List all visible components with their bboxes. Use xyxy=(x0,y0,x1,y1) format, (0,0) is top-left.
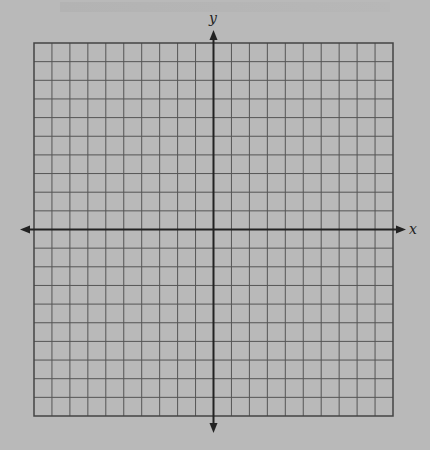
x-axis-label: x xyxy=(409,221,417,237)
y-axis-label: y xyxy=(209,10,217,26)
y-axis xyxy=(210,30,218,433)
coordinate-plane xyxy=(0,0,430,450)
x-axis-right-arrow-icon xyxy=(396,226,406,234)
y-axis-up-arrow-icon xyxy=(210,30,218,40)
y-axis-down-arrow-icon xyxy=(210,423,218,433)
x-axis-left-arrow-icon xyxy=(20,226,30,234)
